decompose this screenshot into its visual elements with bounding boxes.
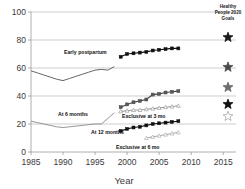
y-tick-label-80: 80 bbox=[17, 35, 27, 45]
data-point-2004 bbox=[151, 93, 154, 96]
data-point-2006 bbox=[164, 48, 167, 51]
data-point-2002 bbox=[138, 108, 142, 111]
data-point-2005 bbox=[158, 48, 161, 51]
x-tick-label-1985: 1985 bbox=[22, 157, 41, 167]
data-point-2001 bbox=[132, 108, 136, 111]
series-at-6-months-nis- bbox=[119, 90, 180, 109]
legend-title-line-3: Goals bbox=[222, 16, 235, 21]
series-label-exclusive-at-6-mo: Exclusive at 6 mo bbox=[116, 144, 160, 150]
data-point-2007 bbox=[170, 132, 174, 135]
data-point-2005 bbox=[157, 106, 161, 109]
data-series-group bbox=[31, 47, 180, 140]
legend-title-line-1: Healthy bbox=[220, 4, 237, 9]
data-point-2000 bbox=[125, 109, 129, 112]
data-point-2005 bbox=[157, 134, 161, 137]
data-point-2001 bbox=[132, 52, 135, 55]
series-label-exclusive-at-3-mo: Exclusive at 3 mo bbox=[122, 113, 166, 119]
series-at-12-months bbox=[119, 120, 180, 133]
data-point-2002 bbox=[138, 51, 141, 54]
series-label-at-6-months: At 6 months bbox=[58, 111, 88, 117]
series-label-early-postpartum: Early postpartum bbox=[64, 49, 107, 55]
data-point-2001 bbox=[132, 101, 135, 104]
data-point-2008 bbox=[176, 131, 180, 134]
data-point-2003 bbox=[144, 107, 148, 110]
data-point-2004 bbox=[151, 107, 155, 110]
data-point-2008 bbox=[177, 90, 180, 93]
data-point-2005 bbox=[158, 122, 161, 125]
series-inline-labels: Early postpartumAt 6 monthsExclusive at … bbox=[58, 49, 166, 150]
data-point-2000 bbox=[126, 103, 129, 106]
series-exclusive-at-6-mo bbox=[144, 131, 180, 140]
y-tick-label-40: 40 bbox=[17, 91, 27, 101]
data-point-2006 bbox=[164, 91, 167, 94]
data-point-2006 bbox=[164, 121, 167, 124]
star-marker-at-6-months-goal bbox=[223, 62, 233, 71]
x-axis-title: Year bbox=[114, 175, 133, 186]
star-marker-at-12-months-goal bbox=[223, 99, 233, 108]
data-point-2007 bbox=[170, 120, 173, 123]
data-point-2007 bbox=[170, 90, 173, 93]
x-tick-label-1990: 1990 bbox=[54, 157, 73, 167]
x-tick-label-2015: 2015 bbox=[214, 157, 233, 167]
y-tick-label-0: 0 bbox=[21, 147, 26, 157]
data-point-2003 bbox=[145, 124, 148, 127]
chart-canvas: 020406080100 198519901995200020052010201… bbox=[0, 0, 245, 189]
series-line bbox=[121, 48, 179, 56]
x-tick-label-2010: 2010 bbox=[182, 157, 201, 167]
series-line bbox=[121, 121, 179, 131]
x-tick-label-2000: 2000 bbox=[118, 157, 137, 167]
star-marker-exclusive-at-3-mo-goal bbox=[223, 82, 233, 91]
y-tick-labels: 020406080100 bbox=[12, 7, 26, 157]
data-point-2004 bbox=[151, 49, 154, 52]
x-tick-labels: 1985199019952000200520102015 bbox=[22, 157, 233, 167]
data-point-2000 bbox=[126, 53, 129, 56]
breastfeeding-rates-chart: 020406080100 198519901995200020052010201… bbox=[0, 0, 245, 189]
goal-star-markers bbox=[223, 32, 233, 120]
x-tick-label-1995: 1995 bbox=[86, 157, 105, 167]
star-marker-exclusive-at-6-mo-goal bbox=[223, 111, 233, 120]
data-point-2005 bbox=[158, 92, 161, 95]
data-point-2004 bbox=[151, 135, 155, 138]
data-point-2003 bbox=[144, 136, 148, 139]
x-tick-label-2005: 2005 bbox=[150, 157, 169, 167]
data-point-1999 bbox=[119, 55, 122, 58]
legend-group: HealthyPeople 2020Goals bbox=[215, 4, 242, 21]
data-point-1999 bbox=[119, 106, 122, 109]
y-tick-label-100: 100 bbox=[12, 7, 26, 17]
data-point-2003 bbox=[145, 98, 148, 101]
gridlines-group bbox=[31, 12, 236, 124]
data-point-2002 bbox=[138, 125, 141, 128]
axes-group bbox=[28, 12, 236, 155]
data-point-2006 bbox=[164, 133, 168, 136]
data-point-2001 bbox=[132, 126, 135, 129]
data-point-2006 bbox=[164, 105, 168, 108]
series-early-postpartum bbox=[31, 67, 114, 81]
data-point-2002 bbox=[138, 99, 141, 102]
data-point-2007 bbox=[170, 105, 174, 108]
series-line bbox=[121, 106, 179, 112]
series-line bbox=[31, 67, 114, 81]
data-point-2008 bbox=[176, 104, 180, 107]
data-point-2003 bbox=[145, 50, 148, 53]
series-label-at-12-months: At 12 months bbox=[91, 129, 124, 135]
data-point-2004 bbox=[151, 123, 154, 126]
data-point-2008 bbox=[177, 120, 180, 123]
data-point-2000 bbox=[126, 127, 129, 130]
series-early-postpartum-nis- bbox=[119, 47, 180, 58]
y-tick-label-20: 20 bbox=[17, 119, 27, 129]
series-line bbox=[121, 91, 179, 107]
y-tick-label-60: 60 bbox=[17, 63, 27, 73]
legend-title-line-2: People 2020 bbox=[215, 10, 242, 15]
data-point-2007 bbox=[170, 47, 173, 50]
data-point-2008 bbox=[177, 47, 180, 50]
